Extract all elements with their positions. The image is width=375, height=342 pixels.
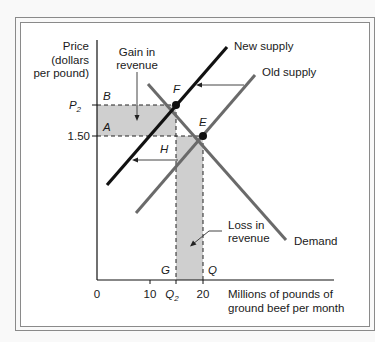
loss-label-line2: revenue <box>228 232 270 244</box>
gain-label-line2: revenue <box>116 59 158 71</box>
area-q-label: Q <box>208 264 217 276</box>
x-tick-label-20: 20 <box>197 288 210 300</box>
x-axis-title-line1: Millions of pounds of <box>228 288 334 300</box>
demand-label: Demand <box>294 235 337 247</box>
loss-label-line1: Loss in <box>228 219 264 231</box>
demand-curve <box>148 84 286 240</box>
point-e-marker <box>199 132 207 140</box>
x-tick-label-q2: Q2 <box>165 288 179 303</box>
area-h-label: H <box>160 143 169 155</box>
y-axis-title-line1: Price <box>63 40 89 52</box>
y-axis-title-line3: per pound) <box>33 67 89 79</box>
old-supply-label: Old supply <box>262 66 317 78</box>
point-f-label: F <box>173 83 181 95</box>
shift-arrow-top <box>196 83 244 88</box>
y-tick-label-150: 1.50 <box>68 130 90 142</box>
gain-label-line1: Gain in <box>119 46 155 58</box>
point-e-label: E <box>199 116 207 128</box>
x-tick-label-0: 0 <box>94 288 100 300</box>
x-tick-label-10: 10 <box>144 288 157 300</box>
new-supply-label: New supply <box>234 40 294 52</box>
area-g-label: G <box>161 264 170 276</box>
x-axis-title-line2: ground beef per month <box>228 302 344 314</box>
shift-arrow-bottom <box>132 158 178 163</box>
y-tick-label-p2: P2 <box>69 99 82 114</box>
area-b-label: B <box>103 90 111 102</box>
loss-revenue-area <box>176 136 203 280</box>
area-a-label: A <box>102 121 111 133</box>
y-axis-title-line2: (dollars <box>51 54 89 66</box>
point-f-marker <box>172 101 180 109</box>
